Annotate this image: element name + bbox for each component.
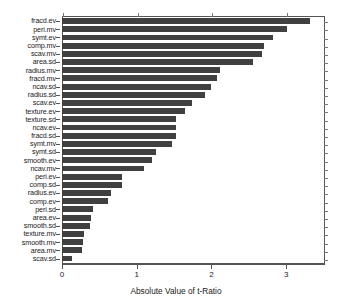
bar-row [62, 83, 325, 91]
y-axis-label: smooth.mv [22, 239, 56, 246]
bar-row [62, 42, 325, 50]
y-axis-label: radius.ev [28, 189, 56, 196]
y-axis-label: radius.mv [26, 67, 56, 74]
bar [62, 166, 144, 172]
bar-row [62, 123, 325, 131]
bar-row [62, 74, 325, 82]
bar-row [62, 189, 325, 197]
y-axis-tick [56, 37, 60, 38]
bar-row [62, 140, 325, 148]
y-axis-label: scav.ev [33, 99, 56, 106]
bar-row [62, 99, 325, 107]
bar [62, 149, 156, 155]
bar-row [62, 33, 325, 41]
y-axis-label: ncav.mv [30, 165, 56, 172]
y-axis-tick [56, 152, 60, 153]
bar [62, 256, 72, 262]
y-axis-label-row: symt.sd [0, 148, 56, 156]
bar-row [62, 254, 325, 262]
bar [62, 75, 217, 81]
y-axis-label: fracd.sd [31, 132, 56, 139]
bar-row [62, 230, 325, 238]
bar [62, 51, 262, 57]
bar-row [62, 91, 325, 99]
bar-chart-figure: fracd.evperi.mvsymt.evcomp.mvscav.mvarea… [0, 0, 352, 305]
y-axis-label: symt.sd [32, 148, 56, 155]
y-axis-tick [56, 209, 60, 210]
y-axis-label: fracd.mv [29, 75, 56, 82]
bar-row [62, 148, 325, 156]
bar-row [62, 197, 325, 205]
y-axis-label: ncav.ev [32, 124, 56, 131]
bar [62, 247, 82, 253]
y-axis-label-row: texture.mv [0, 230, 56, 238]
x-axis-tick-label: 2 [209, 270, 213, 279]
bar-row [62, 222, 325, 230]
y-axis-label: texture.sd [25, 116, 56, 123]
y-axis-label-row: scav.sd [0, 254, 56, 262]
x-axis-title: Absolute Value of t-Ratio [0, 286, 352, 296]
x-axis-tick-label: 0 [60, 270, 64, 279]
bar [62, 215, 91, 221]
y-axis-tick [56, 185, 60, 186]
y-axis-tick [56, 168, 60, 169]
bar-row [62, 25, 325, 33]
y-axis-label-row: fracd.ev [0, 17, 56, 25]
y-axis-label: texture.mv [23, 230, 56, 237]
bar-row [62, 107, 325, 115]
y-axis-tick [56, 78, 60, 79]
bar-row [62, 17, 325, 25]
y-axis-tick [56, 95, 60, 96]
y-axis-label: scav.mv [31, 50, 56, 57]
x-axis-tick [211, 264, 212, 269]
y-axis-tick [56, 46, 60, 47]
y-axis-label-row: radius.ev [0, 189, 56, 197]
y-axis-tick [56, 62, 60, 63]
bar-row [62, 246, 325, 254]
y-axis-label: fracd.ev [31, 17, 56, 24]
y-axis-tick [56, 119, 60, 120]
bar-row [62, 173, 325, 181]
y-axis-label: smooth.sd [24, 222, 56, 229]
y-axis-tick [56, 259, 60, 260]
y-axis-labels: fracd.evperi.mvsymt.evcomp.mvscav.mvarea… [0, 17, 56, 263]
bar [62, 116, 176, 122]
y-axis-tick [56, 70, 60, 71]
x-axis-tick [137, 264, 138, 269]
bar [62, 92, 205, 98]
bar [62, 18, 310, 24]
x-axis-tick-label: 3 [284, 270, 288, 279]
bar-row [62, 115, 325, 123]
y-axis-tick [56, 29, 60, 30]
y-axis-label: symt.ev [32, 34, 56, 41]
bar [62, 59, 253, 65]
bar-row [62, 181, 325, 189]
bar-row [62, 50, 325, 58]
bar-row [62, 238, 325, 246]
bar [62, 239, 83, 245]
y-axis-tick [56, 111, 60, 112]
y-axis-tick [56, 250, 60, 251]
bar-row [62, 164, 325, 172]
y-axis-label: comp.mv [28, 42, 56, 49]
bar-row [62, 66, 325, 74]
y-axis-label: symt.mv [30, 140, 56, 147]
y-axis-label: peri.mv [33, 26, 56, 33]
y-axis-label-row: area.sd [0, 58, 56, 66]
y-axis-tick [56, 54, 60, 55]
y-axis-label: smooth.ev [24, 157, 56, 164]
bar-row [62, 214, 325, 222]
bar [62, 43, 264, 49]
bar [62, 35, 273, 41]
bar [62, 108, 185, 114]
bar [62, 198, 108, 204]
bar [62, 157, 152, 163]
x-axis-tick [286, 264, 287, 269]
y-axis-tick [56, 21, 60, 22]
bar [62, 26, 287, 32]
y-axis-label: scav.sd [33, 255, 56, 262]
y-axis-label-row: scav.ev [0, 99, 56, 107]
y-axis-label: area.sd [33, 58, 56, 65]
y-axis-tick [56, 242, 60, 243]
y-axis-label: radius.sd [28, 91, 56, 98]
